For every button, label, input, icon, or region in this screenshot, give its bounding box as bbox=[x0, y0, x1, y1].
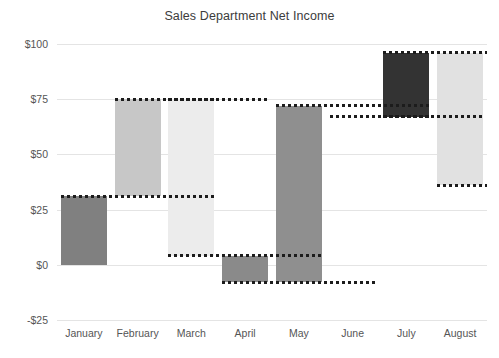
gridline bbox=[57, 320, 487, 321]
y-axis-tick-label: -$25 bbox=[4, 314, 48, 326]
x-axis-tick-label: April bbox=[235, 327, 256, 339]
y-axis-tick-label: $0 bbox=[4, 259, 48, 271]
connector-line bbox=[168, 98, 268, 101]
y-axis-tick-label: $50 bbox=[4, 148, 48, 160]
connector-line bbox=[330, 104, 430, 107]
connector-line bbox=[276, 281, 376, 284]
connector-line bbox=[437, 51, 487, 54]
connector-line bbox=[383, 115, 483, 118]
connector-line bbox=[437, 184, 487, 187]
y-axis-tick-label: $75 bbox=[4, 93, 48, 105]
x-axis-tick-label: June bbox=[341, 327, 364, 339]
y-axis-tick-label: $100 bbox=[4, 38, 48, 50]
connector-line bbox=[115, 195, 215, 198]
x-axis-tick-label: March bbox=[177, 327, 206, 339]
chart-title: Sales Department Net Income bbox=[0, 9, 499, 23]
x-axis-tick-label: February bbox=[117, 327, 159, 339]
connector-line bbox=[222, 254, 322, 257]
x-axis-tick-label: May bbox=[289, 327, 309, 339]
waterfall-chart: Sales Department Net Income $100$75$50$2… bbox=[0, 0, 499, 358]
y-axis-tick-label: $25 bbox=[4, 204, 48, 216]
x-axis-tick-label: August bbox=[444, 327, 477, 339]
x-axis-tick-label: July bbox=[397, 327, 416, 339]
connectors-group bbox=[57, 44, 487, 320]
x-axis-tick-label: January bbox=[65, 327, 102, 339]
plot-area bbox=[57, 44, 487, 320]
